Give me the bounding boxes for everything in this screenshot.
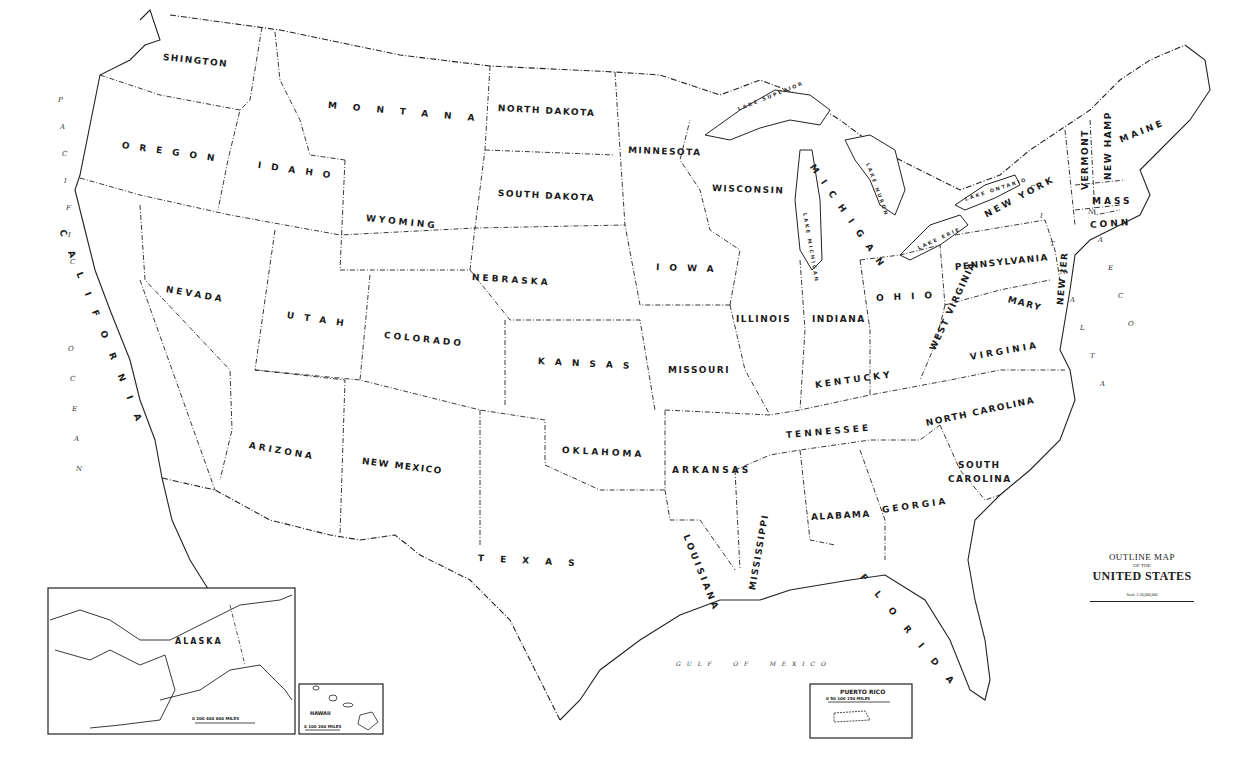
pacific-letter: C	[62, 150, 67, 158]
atlantic-ocean-letter: O	[1128, 320, 1134, 328]
canada-border	[170, 15, 1185, 190]
pacific-ocean-letter: E	[72, 405, 77, 413]
title-line-3: UNITED STATES	[1082, 569, 1202, 584]
state-label-new-hampshire: NEW HAMP	[1103, 111, 1113, 180]
scale-text: Scale 1:30,000,000	[1082, 592, 1202, 597]
atlantic-ocean-letter: C	[1118, 292, 1123, 300]
pacific-letter: A	[60, 123, 65, 131]
state-label-indiana: INDIANA	[812, 314, 866, 324]
atlantic-letter: T	[1090, 352, 1095, 360]
pacific-letter: P	[58, 96, 63, 104]
atlantic-letter: T	[1050, 240, 1055, 248]
atlantic-letter: N	[1060, 268, 1066, 276]
atlantic-letter: A	[1070, 296, 1075, 304]
atlantic-letter: C	[1030, 184, 1035, 192]
pacific-letter: C	[70, 258, 75, 266]
state-label-south-carolina-2: CAROLINA	[948, 474, 1012, 484]
state-label-massachusetts: MASS	[1092, 196, 1132, 206]
pacific-ocean-letter: O	[68, 345, 74, 353]
pacific-coastline	[75, 10, 230, 600]
atlantic-letter: A	[1100, 380, 1105, 388]
map-title-block: OUTLINE MAP OF THE UNITED STATES Scale 1…	[1082, 552, 1202, 602]
pacific-ocean-letter: N	[76, 465, 82, 473]
title-line-1: OUTLINE MAP	[1082, 552, 1202, 562]
puerto-rico-scale: 0 50 100 150 MILES	[826, 696, 870, 701]
atlantic-ocean-letter: E	[1108, 264, 1113, 272]
hawaii-scale: 0 100 200 MILES	[304, 724, 341, 729]
pacific-letter: F	[66, 204, 71, 212]
gulf-of-mexico-label: G U L F O F M E X I C O	[676, 660, 828, 667]
atlantic-letter: I	[1040, 212, 1043, 220]
state-label-south-carolina: SOUTH	[958, 460, 1001, 470]
alaska-scale: 0 200 400 600 MILES	[192, 716, 239, 721]
pacific-letter: I	[64, 177, 67, 185]
atlantic-ocean-letter: N	[1088, 208, 1094, 216]
alaska-label: ALASKA	[175, 637, 223, 646]
state-label-illinois: ILLINOIS	[736, 314, 791, 324]
pacific-ocean-letter: A	[74, 435, 79, 443]
scale-bar	[1090, 598, 1194, 602]
atlantic-letter: L	[1080, 324, 1085, 332]
puerto-rico-label: PUERTO RICO	[840, 688, 885, 695]
state-label-missouri: MISSOURI	[668, 365, 730, 375]
us-outline-map	[0, 0, 1255, 772]
atlantic-ocean-letter: A	[1098, 236, 1103, 244]
alaska-inset	[48, 588, 295, 734]
title-line-2: OF THE	[1082, 563, 1202, 568]
hawaii-label: HAWAII	[310, 710, 331, 716]
pacific-ocean-letter: C	[70, 375, 75, 383]
pacific-letter: I	[68, 231, 71, 239]
state-label-vermont: VERMONT	[1080, 129, 1090, 190]
state-label-arkansas: ARKANSAS	[672, 465, 751, 475]
